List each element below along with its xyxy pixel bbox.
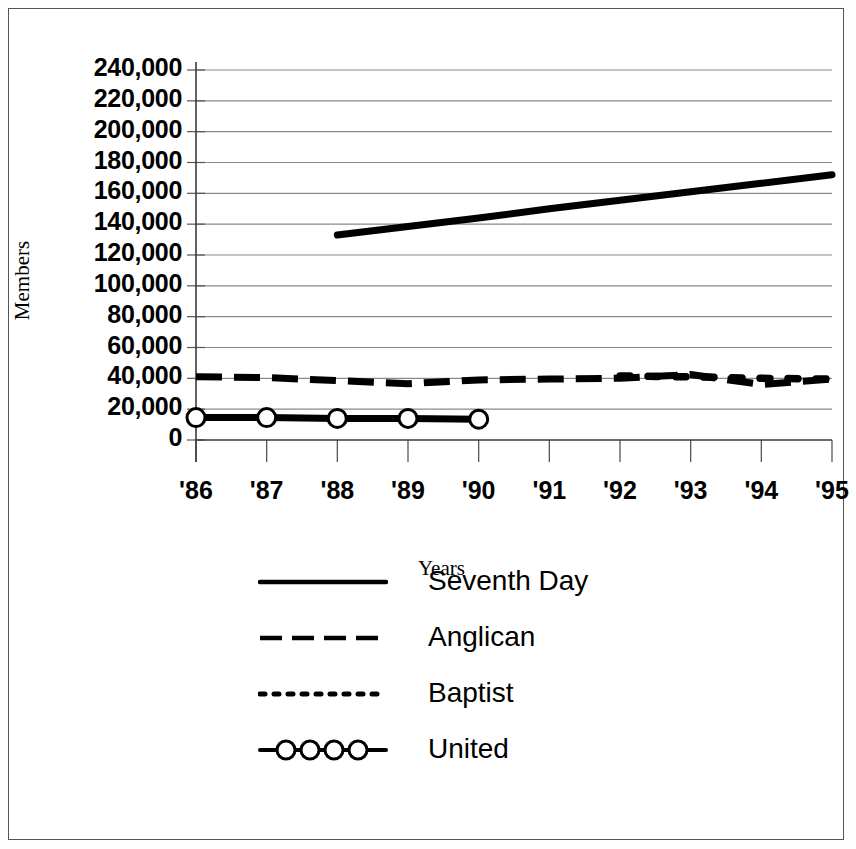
legend-label: United [428,733,509,765]
series-marker-united [470,410,488,428]
x-tick-label: '94 [726,476,796,505]
x-tick-label: '93 [656,476,726,505]
legend-swatch-dashed [258,621,388,655]
legend-swatch-dotted [258,677,388,711]
x-tick-marks [196,440,832,462]
x-tick-label: '91 [514,476,584,505]
y-tick-label: 60,000 [107,331,182,360]
series-marker-united [399,409,417,427]
x-tick-label: '89 [373,476,443,505]
legend-item-united[interactable]: United [258,733,678,789]
legend-item-seventh-day[interactable]: Seventh Day [258,565,678,621]
data-series-layer [187,175,832,428]
gridlines [196,70,832,409]
legend-label: Seventh Day [428,565,588,597]
series-marker-united [258,409,276,427]
y-tick-label: 220,000 [94,84,182,113]
legend-swatch-circle-markers [258,733,388,767]
y-tick-label: 120,000 [94,238,182,267]
legend-item-anglican[interactable]: Anglican [258,621,678,677]
x-tick-label: '90 [444,476,514,505]
y-tick-label: 240,000 [94,53,182,82]
y-axis-title: Members [10,231,35,331]
legend-swatch-solid [258,565,388,599]
y-tick-label: 40,000 [107,361,182,390]
y-tick-label: 200,000 [94,115,182,144]
y-tick-label: 0 [168,423,182,452]
legend-item-baptist[interactable]: Baptist [258,677,678,733]
x-tick-label: '92 [585,476,655,505]
y-tick-label: 80,000 [107,300,182,329]
x-tick-label: '86 [161,476,231,505]
series-line-seventh-day [337,175,832,235]
chart-legend: Seventh DayAnglicanBaptistUnited [258,565,678,789]
y-tick-label-group: 240,000220,000200,000180,000160,000140,0… [36,0,182,480]
x-tick-label: '88 [302,476,372,505]
y-tick-label: 180,000 [94,146,182,175]
y-tick-label: 20,000 [107,392,182,421]
y-tick-label: 100,000 [94,269,182,298]
x-tick-label: '87 [232,476,302,505]
series-marker-united [328,409,346,427]
series-marker-united [187,409,205,427]
y-tick-label: 160,000 [94,176,182,205]
y-tick-label: 140,000 [94,207,182,236]
x-tick-label: '95 [797,476,856,505]
legend-label: Baptist [428,677,514,709]
chart-figure: 240,000220,000200,000180,000160,000140,0… [0,0,856,849]
legend-label: Anglican [428,621,535,653]
